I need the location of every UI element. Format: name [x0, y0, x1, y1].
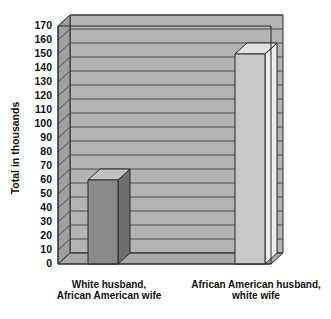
- chart-canvas: 1701601501401301201101009080706050403020…: [0, 0, 331, 319]
- plot-area: [58, 15, 283, 264]
- bar-front-face-1: [235, 54, 265, 264]
- y-tick-label: 150: [34, 47, 52, 59]
- bar-side-face-0: [118, 169, 130, 264]
- y-tick-label: 70: [40, 159, 52, 171]
- y-tick-label: 120: [34, 89, 52, 101]
- bar-0[interactable]: [88, 169, 130, 264]
- y-tick-label: 130: [34, 75, 52, 87]
- y-tick-label: 140: [34, 61, 52, 73]
- y-tick-label: 90: [40, 131, 52, 143]
- y-tick-label: 40: [40, 201, 52, 213]
- bar-chart: 1701601501401301201101009080706050403020…: [0, 0, 331, 319]
- y-tick-label: 160: [34, 33, 52, 45]
- category-label-line: White husband,: [72, 279, 147, 290]
- y-tick-label: 170: [34, 19, 52, 31]
- category-label-line: African American wife: [57, 290, 162, 301]
- category-label-line: African American husband,: [191, 279, 321, 290]
- category-label-line: white wife: [231, 290, 280, 301]
- y-tick-label: 50: [40, 187, 52, 199]
- y-axis-title-text: Total in thousands: [9, 102, 21, 195]
- category-label-0: White husband,African American wife: [57, 279, 162, 301]
- y-tick-label: 30: [40, 215, 52, 227]
- y-tick-label: 100: [34, 117, 52, 129]
- y-axis-title: Total in thousands: [9, 102, 21, 195]
- y-tick-label: 60: [40, 173, 52, 185]
- bar-front-face-0: [88, 180, 118, 264]
- y-tick-label: 110: [35, 103, 52, 115]
- y-tick-label: 20: [40, 229, 52, 241]
- y-tick-label: 0: [46, 257, 52, 269]
- y-tick-label: 10: [40, 243, 52, 255]
- y-tick-label: 80: [40, 145, 52, 157]
